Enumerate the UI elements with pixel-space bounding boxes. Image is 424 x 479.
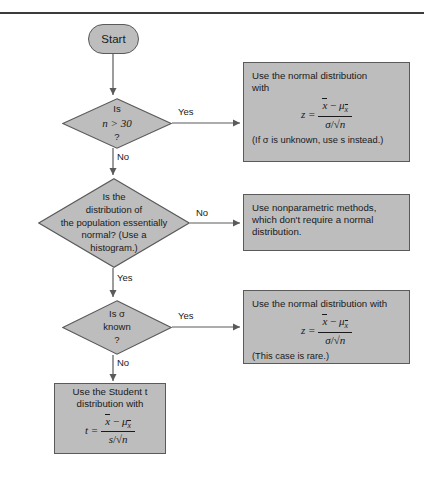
decision-node-sigma-known-label: Is σ known ? <box>62 308 172 346</box>
decision-line-1: Is σ <box>62 308 172 321</box>
outcome4-formula: t = x − μx s/√n <box>63 415 157 447</box>
sqrt-n-glyph: √n <box>116 433 128 445</box>
start-node-label: Start <box>101 32 125 46</box>
outcome1-line-1: Use the normal distribution <box>252 70 401 82</box>
outcome2-line-3: distribution. <box>252 226 401 238</box>
minus-glyph: − <box>330 315 336 327</box>
outcome3-formula: z = x − μx σ/√n <box>252 315 401 347</box>
decision-node-sigma-known[interactable]: Is σ known ? <box>62 300 172 355</box>
decision-line-3: ? <box>62 334 172 347</box>
outcome1-formula-lhs: z = <box>301 108 315 122</box>
decision-line-1: Is <box>62 103 172 116</box>
x-bar-glyph: x <box>322 99 327 113</box>
decision-line-3: ? <box>62 131 172 144</box>
outcome3-formula-lhs: z = <box>301 324 315 338</box>
decision-line-4: normal? (Use a <box>38 229 190 242</box>
edge-label-d2-no: No <box>196 207 208 218</box>
outcome1-note: (If σ is unknown, use s instead.) <box>252 135 401 147</box>
decision-line-1: Is the <box>38 191 190 204</box>
outcome-box-normal-distribution-1[interactable]: Use the normal distribution with z = x −… <box>243 62 410 162</box>
minus-glyph: − <box>113 415 119 427</box>
outcome3-note: (This case is rare.) <box>252 351 401 363</box>
sqrt-n-glyph: √n <box>334 334 346 346</box>
outcome4-formula-denominator: s/√n <box>105 432 132 447</box>
outcome-box-normal-distribution-2[interactable]: Use the normal distribution with z = x −… <box>243 290 410 364</box>
outcome1-line-2: with <box>252 82 401 94</box>
edge-label-d1-yes: Yes <box>178 106 194 117</box>
outcome3-formula-denominator: σ/√n <box>321 333 349 348</box>
outcome-box-student-t[interactable]: Use the Student t distribution with t = … <box>54 383 166 454</box>
outcome2-line-1: Use nonparametric methods, <box>252 202 401 214</box>
outcome4-line-1: Use the Student t <box>63 386 157 398</box>
decision-node-normality-label: Is the distribution of the population es… <box>38 191 190 255</box>
outcome4-formula-numerator: x − μx <box>101 415 135 432</box>
outcome2-line-2: which don't require a normal <box>252 214 401 226</box>
mu-subscript-x-bar: x <box>345 105 349 115</box>
decision-line-2: distribution of <box>38 204 190 217</box>
minus-glyph: − <box>330 99 336 111</box>
outcome1-formula-fraction: x − μx σ/√n <box>318 99 352 131</box>
decision-node-sample-size[interactable]: Is n > 30 ? <box>62 98 172 149</box>
decision-node-sample-size-label: Is n > 30 ? <box>62 103 172 143</box>
edge-label-d3-no: No <box>117 357 129 368</box>
mu-subscript-x-bar: x <box>127 421 131 431</box>
outcome1-formula-denominator: σ/√n <box>321 117 349 132</box>
outcome1-formula-numerator: x − μx <box>318 99 352 116</box>
outcome4-formula-fraction: x − μx s/√n <box>101 415 135 447</box>
outcome4-formula-lhs: t = <box>85 424 98 438</box>
decision-line-2: n > 30 <box>62 116 172 131</box>
flowchart-page: Start Is n > 30 ? Yes No Use the normal … <box>0 0 424 479</box>
outcome-box-nonparametric[interactable]: Use nonparametric methods, which don't r… <box>243 194 410 251</box>
decision-line-3: the population essentially <box>38 217 190 230</box>
outcome3-formula-numerator: x − μx <box>318 315 352 332</box>
x-bar-glyph: x <box>105 415 110 429</box>
x-bar-glyph: x <box>322 315 327 329</box>
outcome3-line-1: Use the normal distribution with <box>252 298 401 310</box>
outcome3-formula-fraction: x − μx σ/√n <box>318 315 352 347</box>
edge-label-d2-yes: Yes <box>117 272 133 283</box>
start-node[interactable]: Start <box>88 24 139 54</box>
outcome4-line-2: distribution with <box>63 398 157 410</box>
sqrt-n-glyph: √n <box>334 118 346 130</box>
decision-line-2: known <box>62 321 172 334</box>
decision-node-normality[interactable]: Is the distribution of the population es… <box>38 178 190 268</box>
mu-subscript-x-bar: x <box>345 321 349 331</box>
edge-label-d1-no: No <box>117 151 129 162</box>
header-divider-rule <box>0 12 424 14</box>
edge-label-d3-yes: Yes <box>178 310 194 321</box>
outcome1-formula: z = x − μx σ/√n <box>252 99 401 131</box>
decision-line-5: histogram.) <box>38 242 190 255</box>
